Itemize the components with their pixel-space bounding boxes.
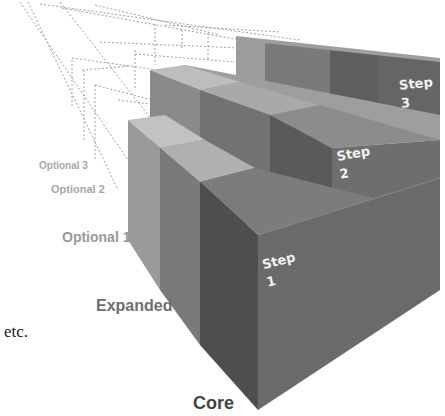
etc-label: etc. <box>4 322 28 342</box>
step-3-word: Step <box>398 73 433 94</box>
step-3-label: Step 3 <box>398 73 435 111</box>
step-2-label: Step 2 <box>335 142 374 182</box>
tier-label-optional-1: Optional 1 <box>62 230 130 244</box>
staircase-diagram: Optional 3 Optional 2 Optional 1 Expande… <box>0 0 445 416</box>
staircase-graphic <box>0 0 445 416</box>
tier-label-expanded: Expanded <box>96 298 172 314</box>
tier-label-optional-3: Optional 3 <box>39 161 88 171</box>
tier-label-optional-2: Optional 2 <box>51 184 105 195</box>
tier-label-core: Core <box>193 394 234 412</box>
step-3-number: 3 <box>400 91 435 112</box>
